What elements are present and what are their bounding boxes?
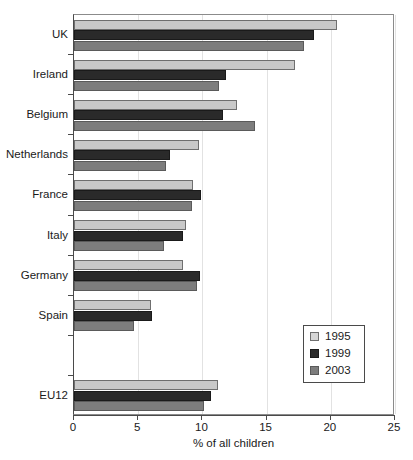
category-tick-9 — [68, 375, 73, 376]
category-tick-6 — [68, 255, 73, 256]
category-label-spain: Spain — [39, 309, 68, 321]
bar-eu12-1995 — [74, 380, 218, 390]
bar-uk-1995 — [74, 20, 337, 30]
category-tick-1 — [68, 54, 73, 55]
bar-chart: UKIrelandBelgiumNetherlandsFranceItalyGe… — [0, 0, 413, 460]
bar-netherlands-1995 — [74, 140, 199, 150]
category-tick-8 — [68, 335, 73, 336]
x-tick-15 — [266, 415, 267, 420]
x-tick-5 — [137, 415, 138, 420]
category-axis-labels: UKIrelandBelgiumNetherlandsFranceItalyGe… — [0, 14, 68, 415]
x-tick-label-20: 20 — [323, 421, 336, 434]
bar-ireland-2003 — [74, 81, 219, 91]
legend-item-1999[interactable]: 1999 — [310, 348, 358, 359]
bar-france-1999 — [74, 190, 201, 200]
category-label-france: France — [32, 188, 68, 200]
bar-belgium-1995 — [74, 100, 237, 110]
legend-label-2003: 2003 — [325, 365, 351, 376]
category-tick-5 — [68, 215, 73, 216]
category-label-netherlands: Netherlands — [6, 148, 68, 160]
legend-item-2003[interactable]: 2003 — [310, 365, 358, 376]
legend-item-1995[interactable]: 1995 — [310, 331, 358, 342]
bar-eu12-2003 — [74, 401, 204, 411]
bar-belgium-2003 — [74, 121, 255, 131]
bar-belgium-1999 — [74, 110, 223, 120]
x-axis-title: % of all children — [73, 437, 394, 449]
x-tick-label-5: 5 — [134, 421, 140, 434]
category-tick-3 — [68, 134, 73, 135]
bar-eu12-1999 — [74, 391, 211, 401]
category-tick-7 — [68, 295, 73, 296]
category-tick-2 — [68, 94, 73, 95]
bar-germany-1999 — [74, 271, 200, 281]
bar-germany-1995 — [74, 260, 183, 270]
gridline-15 — [267, 15, 268, 414]
category-label-uk: UK — [52, 28, 68, 40]
x-tick-label-10: 10 — [195, 421, 208, 434]
x-tick-label-25: 25 — [388, 421, 401, 434]
bar-ireland-1995 — [74, 60, 295, 70]
x-tick-10 — [201, 415, 202, 420]
bar-spain-1999 — [74, 311, 152, 321]
category-label-belgium: Belgium — [26, 108, 68, 120]
bar-netherlands-1999 — [74, 150, 170, 160]
category-label-germany: Germany — [21, 269, 68, 281]
x-axis-line — [73, 415, 394, 416]
x-tick-label-15: 15 — [259, 421, 272, 434]
bar-netherlands-2003 — [74, 161, 166, 171]
x-tick-label-0: 0 — [70, 421, 76, 434]
bar-uk-1999 — [74, 30, 314, 40]
bar-spain-2003 — [74, 321, 134, 331]
x-tick-0 — [73, 415, 74, 420]
bar-france-1995 — [74, 180, 193, 190]
gridline-25 — [395, 15, 396, 414]
x-tick-20 — [330, 415, 331, 420]
category-label-eu12: EU12 — [39, 389, 68, 401]
bar-uk-2003 — [74, 41, 304, 51]
x-tick-25 — [394, 415, 395, 420]
legend-swatch-2003 — [310, 366, 319, 375]
legend-swatch-1995 — [310, 332, 319, 341]
bar-spain-1995 — [74, 300, 151, 310]
bar-italy-1995 — [74, 220, 186, 230]
bar-ireland-1999 — [74, 70, 226, 80]
bar-france-2003 — [74, 201, 192, 211]
category-tick-4 — [68, 174, 73, 175]
legend-label-1999: 1999 — [325, 348, 351, 359]
legend-swatch-1999 — [310, 349, 319, 358]
category-label-ireland: Ireland — [33, 68, 68, 80]
legend: 1995 1999 2003 — [303, 325, 365, 383]
bar-italy-1999 — [74, 231, 183, 241]
category-label-italy: Italy — [47, 229, 68, 241]
bar-germany-2003 — [74, 281, 197, 291]
bar-italy-2003 — [74, 241, 164, 251]
legend-label-1995: 1995 — [325, 331, 351, 342]
